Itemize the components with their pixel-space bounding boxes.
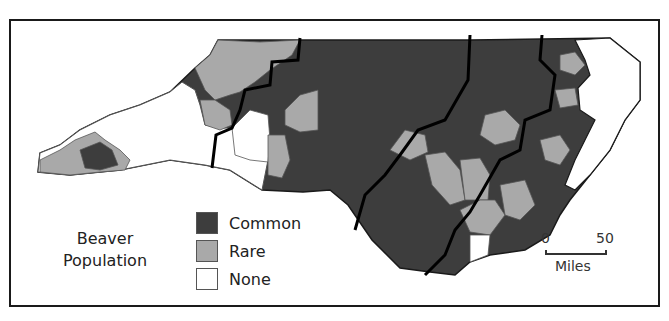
scale-unit: Miles (555, 258, 591, 274)
swatch-rare (196, 240, 218, 262)
swatch-none (196, 268, 218, 290)
legend-item-rare: Rare (196, 238, 301, 264)
legend-item-none: None (196, 266, 301, 292)
scale-start: 0 (541, 230, 550, 246)
legend-title-line1: Beaver (40, 228, 170, 250)
scale-line (545, 250, 607, 255)
legend-title: Beaver Population (40, 228, 170, 272)
legend-label-rare: Rare (229, 242, 266, 261)
scale-bar: 0 50 Miles (535, 230, 605, 248)
scale-end: 50 (596, 230, 614, 246)
legend-title-line2: Population (40, 250, 170, 272)
legend: Common Rare None (196, 210, 301, 294)
legend-label-none: None (229, 270, 271, 289)
legend-item-common: Common (196, 210, 301, 236)
swatch-common (196, 212, 218, 234)
region-none-southeast (470, 235, 490, 262)
legend-label-common: Common (229, 214, 301, 233)
